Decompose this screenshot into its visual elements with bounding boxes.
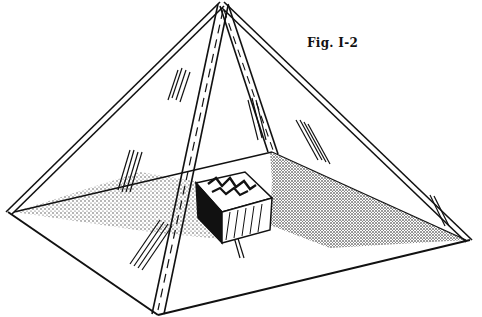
pyramid-illustration xyxy=(0,0,482,317)
pyramid-edges xyxy=(6,2,472,314)
